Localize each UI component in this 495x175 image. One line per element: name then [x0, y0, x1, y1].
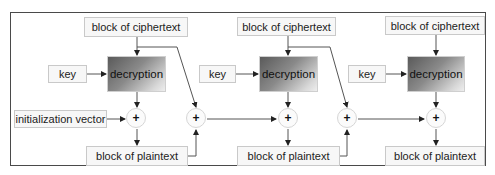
ciphertext-block-2: block of ciphertext	[237, 17, 336, 36]
plaintext-block-1: block of plaintext	[86, 146, 188, 166]
xor-operator-1: +	[126, 108, 146, 128]
decryption-block-1: decryption	[107, 56, 166, 92]
xor-operator-2: +	[278, 108, 298, 128]
ciphertext-block-1: block of ciphertext	[84, 17, 188, 37]
plaintext-block-2: block of plaintext	[237, 146, 340, 166]
plaintext-block-3: block of plaintext	[385, 146, 485, 166]
key-box-1: key	[48, 65, 87, 83]
decryption-block-2: decryption	[259, 56, 318, 92]
xor-operator-chain-2: +	[337, 108, 357, 128]
cbc-decryption-diagram: block of ciphertext key decryption initi…	[0, 0, 495, 175]
initialization-vector-box: initialization vector	[14, 110, 107, 128]
key-box-2: key	[199, 65, 236, 83]
xor-operator-3: +	[426, 108, 446, 128]
key-box-3: key	[348, 65, 386, 83]
decryption-block-3: decryption	[407, 56, 465, 92]
ciphertext-block-3: block of ciphertext	[385, 16, 485, 35]
xor-operator-chain-1: +	[186, 108, 206, 128]
